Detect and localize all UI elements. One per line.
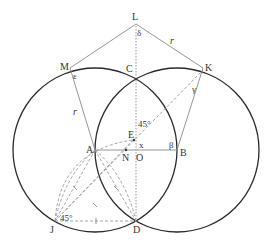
segment-KB xyxy=(177,68,203,150)
label-N: N xyxy=(122,152,129,163)
angle-beta: β xyxy=(169,140,174,150)
label-C: C xyxy=(126,63,133,74)
label-B: B xyxy=(180,147,187,158)
segment-AJ xyxy=(55,150,95,221)
tick-mark xyxy=(93,203,97,207)
point-N xyxy=(125,149,127,151)
label-M: M xyxy=(60,61,69,72)
angle-x: x xyxy=(139,140,144,150)
segment-LK xyxy=(136,24,203,68)
label-L: L xyxy=(132,11,138,22)
label-O: O xyxy=(136,152,143,163)
segment-label-r-left: r xyxy=(73,106,77,117)
label-D: D xyxy=(133,224,140,235)
segment-label-r-top: r xyxy=(170,35,174,46)
angle-45-bottom: 45° xyxy=(60,213,73,223)
label-J: J xyxy=(50,224,54,235)
label-A: A xyxy=(86,144,94,155)
angle-45-top: 45° xyxy=(138,119,151,129)
geometry-diagram: L M C K E A N O B J D δ ε γ β x 45° 45° … xyxy=(0,0,272,246)
label-E: E xyxy=(128,129,134,140)
segment-LM xyxy=(70,24,136,68)
tick-mark xyxy=(73,186,77,190)
angle-gamma: γ xyxy=(191,84,196,94)
segment-AD xyxy=(95,150,136,221)
angle-epsilon: ε xyxy=(73,71,77,81)
angle-delta: δ xyxy=(137,28,141,38)
label-K: K xyxy=(205,62,213,73)
